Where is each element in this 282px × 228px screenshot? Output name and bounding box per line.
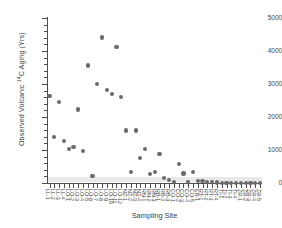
data-point bbox=[119, 95, 123, 99]
data-point bbox=[153, 170, 157, 174]
data-point bbox=[81, 149, 85, 153]
x-tick bbox=[150, 183, 151, 188]
y-tick-minor bbox=[44, 25, 47, 26]
y-tick-minor bbox=[44, 157, 47, 158]
x-tick bbox=[164, 183, 165, 188]
x-tick bbox=[193, 183, 194, 188]
y-axis-title-suffix: C Aging (Yrs) bbox=[17, 32, 26, 76]
y-axis-title: Observed Volcanic 14C Aging (Yrs) bbox=[16, 14, 26, 164]
data-point bbox=[239, 181, 243, 185]
x-tick bbox=[107, 183, 108, 188]
y-axis-title-superscript: 14 bbox=[16, 76, 22, 82]
x-tick bbox=[160, 183, 161, 188]
data-point bbox=[143, 147, 147, 151]
data-point bbox=[129, 170, 133, 174]
data-point bbox=[224, 181, 228, 185]
y-tick-minor bbox=[44, 137, 47, 138]
x-tick bbox=[97, 183, 98, 188]
data-point bbox=[258, 181, 262, 185]
x-tick bbox=[183, 183, 184, 188]
data-point bbox=[138, 156, 142, 160]
x-tick bbox=[203, 183, 204, 188]
data-point bbox=[100, 35, 104, 39]
data-point bbox=[124, 128, 128, 132]
y-tick-minor bbox=[44, 143, 47, 144]
data-point bbox=[248, 181, 252, 185]
y-tick-minor bbox=[44, 64, 47, 65]
y-tick-label: 2000 bbox=[242, 113, 282, 120]
data-point bbox=[191, 170, 195, 174]
y-tick-label: 4000 bbox=[242, 47, 282, 54]
y-tick-minor bbox=[44, 71, 47, 72]
y-axis-line bbox=[47, 17, 48, 184]
y-tick-label: 5000 bbox=[242, 14, 282, 21]
y-tick-minor bbox=[44, 31, 47, 32]
data-point bbox=[220, 181, 224, 185]
data-point bbox=[215, 180, 219, 184]
x-axis-title: Sampling Site bbox=[47, 211, 262, 220]
y-tick-minor bbox=[44, 58, 47, 59]
x-tick bbox=[83, 183, 84, 188]
data-point bbox=[234, 181, 238, 185]
x-tick bbox=[198, 183, 199, 188]
y-tick-minor bbox=[44, 38, 47, 39]
data-point bbox=[229, 181, 233, 185]
y-tick-major bbox=[42, 117, 47, 118]
x-tick bbox=[112, 183, 113, 188]
data-point bbox=[76, 107, 80, 111]
x-tick bbox=[93, 183, 94, 188]
y-tick-minor bbox=[44, 91, 47, 92]
y-axis-title-prefix: Observed Volcanic bbox=[17, 82, 26, 146]
x-tick bbox=[140, 183, 141, 188]
x-tick bbox=[155, 183, 156, 188]
x-tick bbox=[145, 183, 146, 188]
y-tick-minor bbox=[44, 130, 47, 131]
y-tick-major bbox=[42, 18, 47, 19]
x-tick bbox=[73, 183, 74, 188]
data-point bbox=[134, 128, 138, 132]
y-tick-minor bbox=[44, 44, 47, 45]
y-tick-minor bbox=[44, 124, 47, 125]
x-tick bbox=[88, 183, 89, 188]
x-tick bbox=[102, 183, 103, 188]
data-point bbox=[181, 171, 185, 175]
y-tick-major bbox=[42, 150, 47, 151]
x-tick bbox=[116, 183, 117, 188]
x-tick-label: ZR-5 bbox=[256, 189, 262, 201]
x-tick bbox=[78, 183, 79, 188]
data-point bbox=[244, 181, 248, 185]
data-point bbox=[90, 174, 94, 178]
y-tick-major bbox=[42, 84, 47, 85]
data-point bbox=[95, 82, 99, 86]
data-point bbox=[62, 139, 66, 143]
x-tick bbox=[64, 183, 65, 188]
y-tick-minor bbox=[44, 170, 47, 171]
x-tick bbox=[131, 183, 132, 188]
x-tick bbox=[69, 183, 70, 188]
x-tick bbox=[121, 183, 122, 188]
x-tick bbox=[126, 183, 127, 188]
data-point bbox=[52, 135, 56, 139]
x-tick bbox=[54, 183, 55, 188]
scatter-chart-figure: Observed Volcanic 14C Aging (Yrs) 010002… bbox=[0, 0, 282, 228]
data-point bbox=[200, 179, 204, 183]
data-point bbox=[110, 92, 114, 96]
data-point bbox=[148, 172, 152, 176]
x-tick bbox=[50, 183, 51, 188]
data-point bbox=[67, 147, 71, 151]
y-tick-minor bbox=[44, 163, 47, 164]
x-tick bbox=[169, 183, 170, 188]
data-point bbox=[177, 162, 181, 166]
y-tick-minor bbox=[44, 77, 47, 78]
data-point bbox=[47, 94, 51, 98]
y-tick-major bbox=[42, 51, 47, 52]
y-tick-minor bbox=[44, 176, 47, 177]
data-point bbox=[114, 45, 118, 49]
y-tick-major bbox=[42, 183, 47, 184]
x-tick bbox=[59, 183, 60, 188]
x-tick bbox=[179, 183, 180, 188]
y-tick-label: 1000 bbox=[242, 146, 282, 153]
x-tick bbox=[136, 183, 137, 188]
data-point bbox=[157, 152, 161, 156]
data-point bbox=[86, 63, 90, 67]
